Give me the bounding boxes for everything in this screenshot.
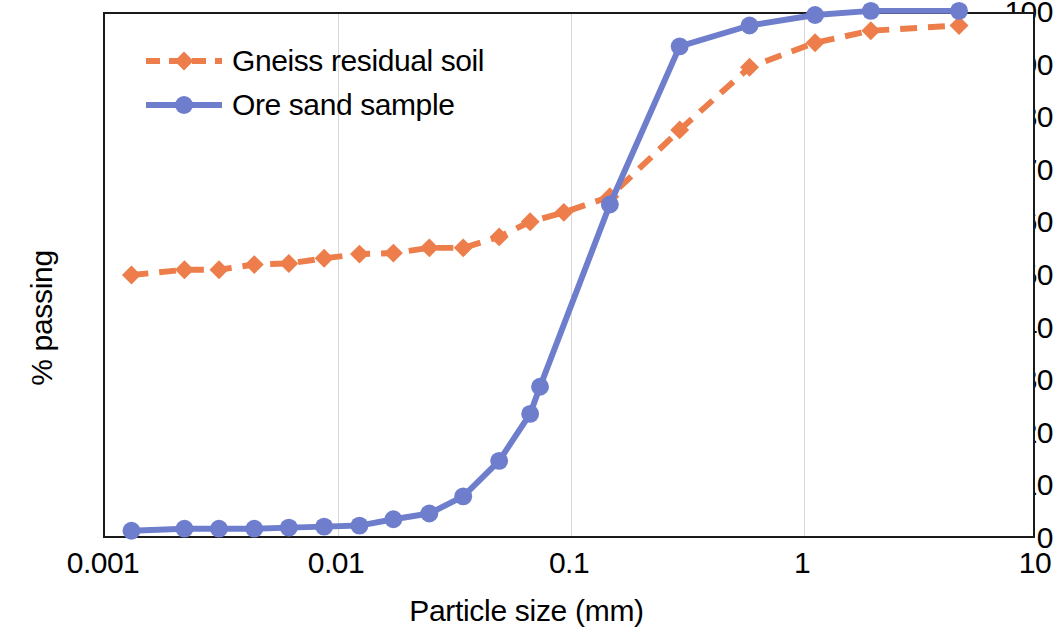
- series-marker-circle: [950, 2, 968, 20]
- series-marker-circle: [741, 17, 759, 35]
- series-marker-circle: [862, 2, 880, 20]
- series-marker-diamond: [175, 260, 194, 279]
- x-axis-title: Particle size (mm): [0, 594, 1053, 628]
- series-marker-circle: [521, 405, 539, 423]
- chart-legend: Gneiss residual soilOre sand sample: [145, 46, 484, 120]
- series-marker-circle: [601, 196, 619, 214]
- series-marker-circle: [245, 520, 263, 538]
- legend-swatch-circle-icon: [145, 92, 223, 118]
- legend-entry[interactable]: Gneiss residual soil: [145, 46, 484, 76]
- x-axis-tick-label: 0.001: [67, 546, 140, 580]
- x-axis-tick-label: 0.1: [549, 546, 589, 580]
- series-marker-diamond: [279, 254, 298, 273]
- series-marker-circle: [384, 510, 402, 528]
- series-marker-circle: [280, 519, 298, 537]
- legend-label: Gneiss residual soil: [232, 46, 484, 76]
- legend-entry[interactable]: Ore sand sample: [145, 90, 484, 120]
- legend-label: Ore sand sample: [232, 90, 454, 120]
- series-marker-diamond: [806, 33, 825, 52]
- series-marker-circle: [490, 452, 508, 470]
- x-axis-tick-label: 10: [1019, 546, 1051, 580]
- series-marker-diamond: [490, 227, 509, 246]
- series-marker-circle: [175, 520, 193, 538]
- series-marker-diamond: [350, 245, 369, 264]
- x-axis-tick-label: 1: [794, 546, 810, 580]
- series-marker-diamond: [454, 238, 473, 257]
- series-marker-diamond: [122, 266, 141, 285]
- series-marker-diamond: [384, 244, 403, 263]
- series-marker-circle: [210, 520, 228, 538]
- series-marker-circle: [315, 518, 333, 536]
- series-marker-circle: [454, 487, 472, 505]
- series-marker-diamond: [210, 260, 229, 279]
- series-marker-diamond: [245, 255, 264, 274]
- series-marker-circle: [420, 505, 438, 523]
- series-marker-circle: [122, 522, 140, 540]
- series-marker-circle: [671, 37, 689, 55]
- legend-swatch-diamond-icon: [145, 48, 223, 74]
- series-marker-circle: [806, 6, 824, 24]
- y-axis-title: % passing: [25, 168, 59, 468]
- series-marker-circle: [531, 378, 549, 396]
- series-marker-circle: [351, 517, 369, 535]
- particle-size-distribution-chart: 0102030405060708090100 % passing 0.0010.…: [0, 0, 1053, 636]
- series-marker-diamond: [861, 21, 880, 40]
- series-marker-diamond: [554, 203, 573, 222]
- series-marker-diamond: [420, 238, 439, 257]
- x-axis-tick-label: 0.01: [308, 546, 364, 580]
- series-marker-diamond: [521, 212, 540, 231]
- series-marker-diamond: [315, 249, 334, 268]
